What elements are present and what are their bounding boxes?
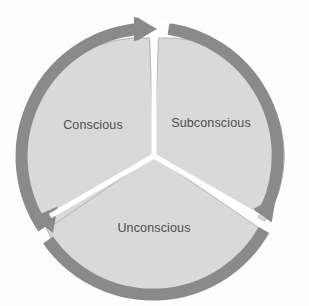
cycle-diagram: Conscious Subconscious Unconscious	[0, 0, 309, 306]
cycle-diagram-svg	[0, 0, 309, 306]
